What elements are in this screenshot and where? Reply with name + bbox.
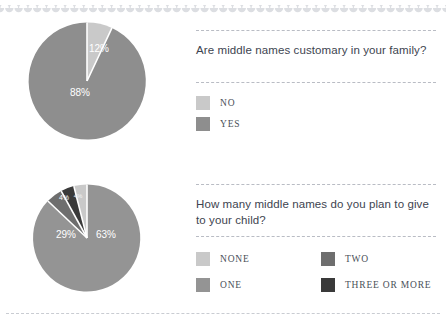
legend-item-none[interactable]: NONE bbox=[196, 246, 321, 272]
legend-label-no: NO bbox=[220, 98, 235, 108]
chart-block-how-many-middle-names: 63% 29% 4% 4% How many middle names do y… bbox=[0, 170, 446, 320]
pie-slice-label-no: 12% bbox=[89, 43, 109, 54]
chart-block-middle-names-customary: 12% 88% Are middle names customary in yo… bbox=[0, 12, 446, 170]
legend-label-none: NONE bbox=[220, 254, 250, 264]
legend-label-one: ONE bbox=[220, 280, 242, 290]
divider-bottom bbox=[6, 313, 440, 314]
divider-top-2 bbox=[196, 184, 436, 185]
divider-mid-1 bbox=[196, 82, 436, 83]
text-column-1: Are middle names customary in your famil… bbox=[196, 12, 446, 170]
legend-swatch-three-or-more bbox=[321, 278, 335, 292]
pie-slice-label-two: 29% bbox=[56, 229, 76, 240]
pie-column-1: 12% 88% bbox=[0, 12, 196, 170]
pie-slice-label-none: 4% bbox=[74, 193, 83, 199]
pie-chart-2-svg: 63% 29% 4% 4% bbox=[33, 184, 141, 292]
pie-chart-1-svg: 12% 88% bbox=[28, 22, 146, 140]
legend-item-yes[interactable]: YES bbox=[196, 113, 446, 134]
legend-item-two[interactable]: TWO bbox=[321, 246, 446, 272]
legend-swatch-no bbox=[196, 96, 210, 110]
pie-column-2: 63% 29% 4% 4% bbox=[0, 170, 196, 320]
scalloped-paper-edge bbox=[0, 0, 446, 12]
pie-slice-label-one: 63% bbox=[96, 229, 116, 240]
legend-swatch-yes bbox=[196, 117, 210, 131]
legend-swatch-none bbox=[196, 252, 210, 266]
legend-item-no[interactable]: NO bbox=[196, 92, 446, 113]
question-text-1: Are middle names customary in your famil… bbox=[196, 42, 432, 58]
pie-chart-1: 12% 88% bbox=[28, 22, 146, 140]
pie-slice-label-yes: 88% bbox=[70, 87, 90, 98]
question-text-2: How many middle names do you plan to giv… bbox=[196, 196, 432, 228]
legend-1: NO YES bbox=[196, 92, 446, 134]
divider-mid-2 bbox=[196, 236, 436, 237]
legend-label-three-or-more: THREE OR MORE bbox=[345, 280, 431, 290]
divider-top-1 bbox=[196, 30, 436, 31]
pie-slice-label-three-or-more: 4% bbox=[59, 194, 69, 201]
survey-results-page: 12% 88% Are middle names customary in yo… bbox=[0, 12, 446, 320]
pie-chart-2: 63% 29% 4% 4% bbox=[33, 184, 141, 292]
legend-item-one[interactable]: ONE bbox=[196, 272, 321, 298]
text-column-2: How many middle names do you plan to giv… bbox=[196, 170, 446, 320]
legend-label-two: TWO bbox=[345, 254, 369, 264]
legend-swatch-one bbox=[196, 278, 210, 292]
legend-item-three-or-more[interactable]: THREE OR MORE bbox=[321, 272, 446, 298]
legend-swatch-two bbox=[321, 252, 335, 266]
legend-2: NONE TWO ONE THREE OR MORE bbox=[196, 246, 446, 298]
legend-label-yes: YES bbox=[220, 119, 240, 129]
